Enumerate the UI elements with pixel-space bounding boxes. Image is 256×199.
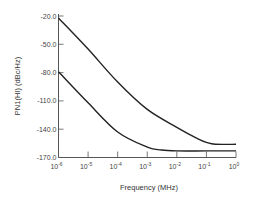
y-tick-label: -110.0 (37, 97, 56, 104)
x-tick-label: 10-1 (198, 161, 210, 170)
y-axis-label: PN1(HI) (dBc/Hz) (13, 56, 22, 115)
phase-noise-curve (59, 72, 237, 151)
y-tick-label: -20.0 (41, 13, 57, 20)
x-tick-label: 100 (229, 161, 240, 170)
x-tick-label: 10-2 (169, 161, 181, 170)
phase-noise-chart: -20.0-50.0-80.0-110.0-140.0-170.0 10-610… (0, 0, 256, 199)
axes (59, 14, 237, 158)
x-tick-label: 10-5 (80, 161, 92, 170)
x-tick-label: 10-3 (139, 161, 151, 170)
y-tick-label: -170.0 (37, 154, 57, 161)
x-axis-label: Frequency (MHz) (120, 183, 178, 192)
x-tick-label: 10-4 (110, 161, 122, 170)
x-ticks: 10-610-510-410-310-210-1100 (50, 152, 239, 170)
phase-noise-curve (59, 18, 237, 145)
y-tick-label: -50.0 (41, 41, 57, 48)
y-tick-label: -140.0 (37, 126, 57, 133)
curves (59, 18, 237, 151)
y-ticks: -20.0-50.0-80.0-110.0-140.0-170.0 (37, 13, 64, 162)
y-tick-label: -80.0 (41, 69, 57, 76)
x-tick-label: 10-6 (50, 161, 62, 170)
